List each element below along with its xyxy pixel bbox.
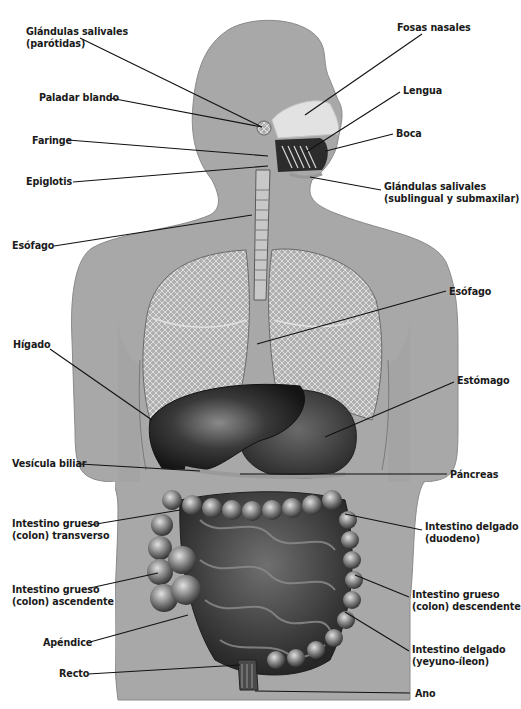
label-text: (colon) ascendente bbox=[12, 596, 114, 608]
label-salivales-sub: Glándulas salivales(sublingual y submaxi… bbox=[384, 181, 519, 205]
label-pancreas: Páncreas bbox=[450, 469, 498, 481]
label-text: (parótidas) bbox=[26, 38, 128, 50]
label-text: Epiglotis bbox=[26, 176, 72, 188]
label-fosas-nasales: Fosas nasales bbox=[397, 22, 471, 34]
label-colon-ascendente: Intestino grueso(colon) ascendente bbox=[12, 584, 114, 608]
label-text: Lengua bbox=[403, 85, 442, 97]
label-parotidas: Glándulas salivales(parótidas) bbox=[26, 26, 128, 50]
label-estomago: Estómago bbox=[457, 375, 510, 387]
label-lengua: Lengua bbox=[403, 85, 442, 97]
label-esofago-top: Esófago bbox=[12, 240, 54, 252]
rectum bbox=[238, 660, 258, 690]
label-text: Hígado bbox=[13, 339, 51, 351]
label-text: Boca bbox=[396, 128, 422, 140]
label-delgado-duodeno: Intestino delgado(duodeno) bbox=[425, 521, 519, 545]
label-paladar: Paladar blando bbox=[39, 92, 119, 104]
label-esofago-right: Esófago bbox=[449, 286, 491, 298]
label-text: Faringe bbox=[32, 135, 72, 147]
label-apendice: Apéndice bbox=[43, 637, 92, 649]
label-text: Ano bbox=[415, 688, 436, 700]
label-text: Fosas nasales bbox=[397, 22, 471, 34]
label-text: (sublingual y submaxilar) bbox=[384, 193, 519, 205]
label-text: Páncreas bbox=[450, 469, 498, 481]
label-text: Recto bbox=[59, 668, 89, 680]
label-text: Vesícula biliar bbox=[12, 458, 86, 470]
label-vesicula: Vesícula biliar bbox=[12, 458, 86, 470]
label-text: Intestino delgado bbox=[412, 644, 506, 656]
label-text: Glándulas salivales bbox=[384, 181, 519, 193]
label-text: Intestino grueso bbox=[412, 589, 521, 601]
leader-line-salivales-sub bbox=[310, 177, 381, 190]
label-epiglotis: Epiglotis bbox=[26, 176, 72, 188]
label-text: Intestino grueso bbox=[12, 518, 109, 530]
label-text: Intestino delgado bbox=[425, 521, 519, 533]
label-faringe: Faringe bbox=[32, 135, 72, 147]
label-higado: Hígado bbox=[13, 339, 51, 351]
label-text: (colon) transverso bbox=[12, 530, 109, 542]
label-text: Apéndice bbox=[43, 637, 92, 649]
label-text: (colon) descendente bbox=[412, 601, 521, 613]
label-text: Glándulas salivales bbox=[26, 26, 128, 38]
label-delgado-yeyuno: Intestino delgado(yeyuno-íleon) bbox=[412, 644, 506, 668]
label-boca: Boca bbox=[396, 128, 422, 140]
label-colon-descendente: Intestino grueso(colon) descendente bbox=[412, 589, 521, 613]
label-text: Esófago bbox=[12, 240, 54, 252]
label-text: Intestino grueso bbox=[12, 584, 114, 596]
label-text: Esófago bbox=[449, 286, 491, 298]
label-text: Estómago bbox=[457, 375, 510, 387]
label-recto: Recto bbox=[59, 668, 89, 680]
label-colon-transverso: Intestino grueso(colon) transverso bbox=[12, 518, 109, 542]
label-ano: Ano bbox=[415, 688, 436, 700]
label-text: Paladar blando bbox=[39, 92, 119, 104]
label-text: (duodeno) bbox=[425, 533, 519, 545]
label-text: (yeyuno-íleon) bbox=[412, 656, 506, 668]
